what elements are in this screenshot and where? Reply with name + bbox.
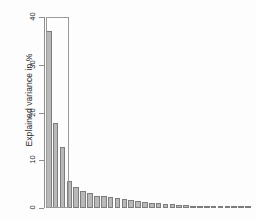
selected-components-box: [46, 17, 69, 208]
bar: [156, 203, 162, 208]
bar: [80, 191, 86, 208]
scree-plot-figure: Explained variance in % 010203040: [0, 0, 256, 221]
y-axis-tick: [39, 65, 44, 66]
bar: [204, 206, 210, 208]
y-axis-tick: [39, 160, 44, 161]
bar: [163, 204, 169, 208]
bar: [115, 198, 121, 208]
y-axis-tick-label: 10: [28, 152, 37, 168]
y-axis-tick: [39, 17, 44, 18]
bar: [170, 204, 176, 208]
bar: [225, 206, 231, 208]
bar: [108, 197, 114, 208]
bar: [87, 193, 93, 208]
y-axis-tick-label: 40: [28, 9, 37, 25]
bar: [135, 201, 141, 208]
bar: [190, 206, 196, 208]
y-axis-line: [44, 17, 45, 208]
bar: [176, 205, 182, 208]
bar: [211, 206, 217, 208]
bar: [142, 202, 148, 208]
y-axis-tick-label: 0: [28, 200, 37, 216]
y-axis-tick: [39, 113, 44, 114]
bar: [183, 205, 189, 208]
y-axis-tick-label: 20: [28, 104, 37, 120]
bar: [218, 206, 224, 208]
bar: [122, 199, 128, 208]
bar: [128, 200, 134, 208]
bar: [245, 206, 251, 208]
bar: [94, 196, 100, 208]
y-axis-tick-label: 30: [28, 56, 37, 72]
bar: [231, 206, 237, 208]
bar: [101, 196, 107, 208]
bar: [73, 187, 79, 208]
bar: [149, 203, 155, 208]
bar: [238, 206, 244, 208]
y-axis-tick: [39, 208, 44, 209]
bar: [197, 206, 203, 208]
plot-area: [46, 17, 252, 208]
